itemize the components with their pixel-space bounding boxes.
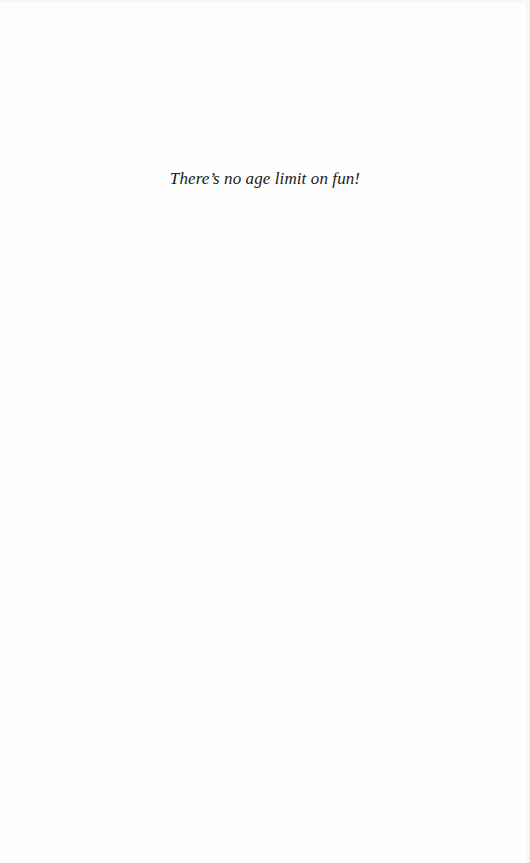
book-page: There’s no age limit on fun! [0, 0, 530, 863]
page-gutter-edge [524, 0, 530, 863]
epigraph-text: There’s no age limit on fun! [0, 169, 530, 189]
page-top-edge [0, 0, 530, 4]
